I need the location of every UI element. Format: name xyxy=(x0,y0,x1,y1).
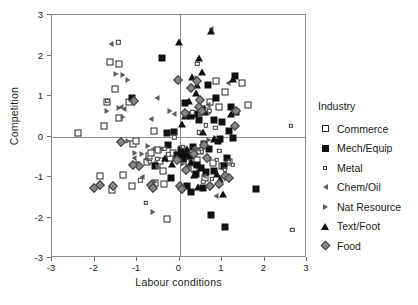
data-point xyxy=(191,145,196,151)
x-tick xyxy=(306,257,307,261)
data-point xyxy=(151,209,156,215)
y-axis-label: Competition xyxy=(8,66,20,166)
data-point xyxy=(211,167,218,174)
data-point xyxy=(153,161,160,168)
data-point xyxy=(231,106,241,116)
data-point xyxy=(133,150,138,156)
data-point xyxy=(171,129,178,136)
data-point xyxy=(121,114,126,120)
data-point xyxy=(168,108,173,114)
y-tick xyxy=(47,176,51,177)
data-point xyxy=(289,124,293,128)
legend-item-chem-oil[interactable]: Chem/Oil xyxy=(318,178,418,198)
data-point xyxy=(146,180,156,190)
data-point xyxy=(225,80,230,86)
data-point xyxy=(194,161,201,168)
legend-item-nat-resource[interactable]: Nat Resource xyxy=(318,197,418,217)
data-point xyxy=(186,83,196,93)
legend-item-food[interactable]: Food xyxy=(318,236,418,256)
data-point xyxy=(134,162,144,172)
data-point xyxy=(190,165,197,172)
data-point xyxy=(188,73,196,80)
data-point xyxy=(219,191,227,198)
data-point xyxy=(227,159,231,163)
data-point xyxy=(168,175,175,182)
x-tick-label: 0 xyxy=(176,262,181,273)
data-point xyxy=(156,164,161,170)
y-tick xyxy=(47,257,51,258)
data-point xyxy=(120,72,125,78)
data-point xyxy=(185,112,192,119)
data-point xyxy=(205,181,215,191)
data-point xyxy=(117,105,122,111)
x-tick-label: 1 xyxy=(218,262,223,273)
data-point xyxy=(143,201,147,205)
data-point xyxy=(245,101,252,108)
data-point xyxy=(219,163,226,170)
x-tick-label: 2 xyxy=(261,262,266,273)
y-tick xyxy=(47,95,51,96)
data-point xyxy=(168,161,176,168)
y-tick xyxy=(47,136,51,137)
data-point xyxy=(183,148,190,155)
data-point xyxy=(146,143,151,149)
data-point xyxy=(199,128,207,135)
data-point xyxy=(224,154,231,161)
data-point xyxy=(129,96,139,106)
data-point xyxy=(125,138,130,144)
legend-item-text-foot[interactable]: Text/Foot xyxy=(318,217,418,237)
data-point xyxy=(203,107,210,114)
data-point xyxy=(207,109,211,113)
legend-item-metal[interactable]: Metal xyxy=(318,158,418,178)
data-point xyxy=(183,145,191,152)
y-tick-label: 2 xyxy=(21,49,43,60)
data-point xyxy=(196,117,203,124)
data-point xyxy=(165,141,172,148)
data-point xyxy=(188,84,193,90)
x-tick-label: -3 xyxy=(47,262,55,273)
data-point xyxy=(202,173,207,179)
data-point xyxy=(189,149,199,159)
data-point xyxy=(215,158,219,162)
data-point xyxy=(95,180,105,190)
data-point xyxy=(188,188,195,195)
data-point xyxy=(144,158,151,165)
legend-item-mech-equip[interactable]: Mech/Equip xyxy=(318,139,418,159)
data-point xyxy=(195,62,199,66)
data-point xyxy=(194,75,199,81)
data-point xyxy=(100,122,107,129)
data-point xyxy=(138,178,142,182)
data-point xyxy=(204,123,208,127)
data-point xyxy=(201,180,205,184)
data-point xyxy=(205,102,210,108)
legend: Industry CommerceMech/EquipMetalChem/Oil… xyxy=(318,100,418,256)
y-tick-label: 3 xyxy=(21,9,43,20)
data-point xyxy=(108,181,118,191)
y-tick xyxy=(47,14,51,15)
data-point xyxy=(198,106,205,113)
legend-item-commerce[interactable]: Commerce xyxy=(318,119,418,139)
data-point xyxy=(131,155,136,161)
legend-marker-right-triangle-icon xyxy=(318,204,332,210)
data-point xyxy=(171,111,176,117)
data-point xyxy=(192,76,202,86)
x-tick xyxy=(94,257,95,261)
data-point xyxy=(238,79,245,86)
x-tick-label: -2 xyxy=(89,262,97,273)
data-point xyxy=(214,193,219,199)
data-point xyxy=(118,104,123,110)
y-tick xyxy=(47,217,51,218)
data-point xyxy=(225,159,232,166)
data-point xyxy=(206,145,213,152)
data-point xyxy=(180,150,187,157)
data-point xyxy=(97,172,104,179)
data-point xyxy=(180,161,185,167)
data-point xyxy=(190,144,197,151)
data-point xyxy=(199,150,203,154)
data-point xyxy=(198,112,203,118)
data-point xyxy=(181,113,189,120)
data-point xyxy=(217,149,221,153)
data-point xyxy=(224,173,234,183)
data-point xyxy=(104,98,111,105)
data-point xyxy=(201,140,208,147)
